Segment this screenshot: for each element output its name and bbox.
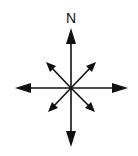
south-arrowhead-icon (66, 131, 76, 147)
compass-rose-diagram: N (0, 0, 138, 156)
east-arrowhead-icon (112, 83, 128, 93)
west-arrowhead-icon (15, 83, 31, 93)
northwest-arrow-line (50, 66, 71, 88)
northeast-arrow-line (71, 66, 92, 88)
north-arrowhead-icon (66, 28, 76, 44)
compass-arrows (0, 0, 138, 156)
